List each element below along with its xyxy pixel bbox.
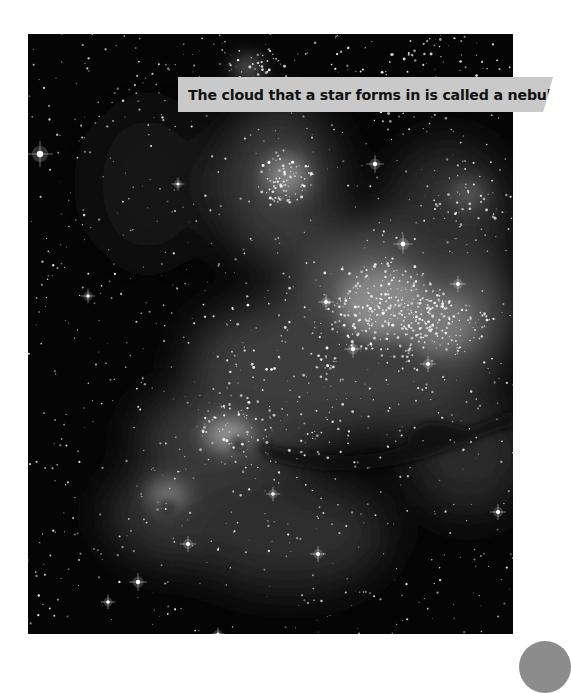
nebula-photo [28,34,513,634]
caption-text: The cloud that a star forms in is called… [178,87,566,103]
caption-banner: The cloud that a star forms in is called… [178,77,553,112]
page-number-badge [519,641,571,693]
star-field [28,34,513,634]
